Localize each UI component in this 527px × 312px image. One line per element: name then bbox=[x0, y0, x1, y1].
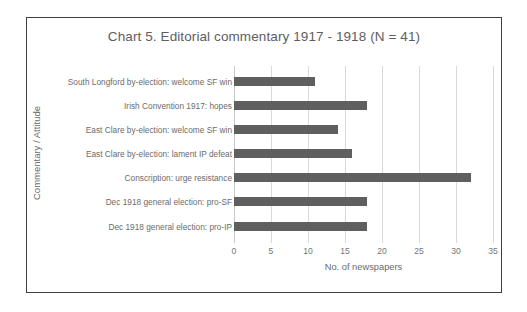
x-tick-label: 35 bbox=[478, 246, 508, 256]
bar[interactable] bbox=[234, 222, 367, 231]
category-label: Conscription: urge resistance bbox=[51, 166, 232, 190]
x-tick-label: 25 bbox=[404, 246, 434, 256]
category-axis-labels: South Longford by-election: welcome SF w… bbox=[51, 70, 232, 239]
bar-row[interactable] bbox=[234, 190, 493, 214]
category-label: South Longford by-election: welcome SF w… bbox=[51, 70, 232, 94]
x-tick-label: 30 bbox=[441, 246, 471, 256]
x-axis-title: No. of newspapers bbox=[234, 262, 493, 272]
bar[interactable] bbox=[234, 77, 315, 86]
x-tick-label: 15 bbox=[330, 246, 360, 256]
x-tick-label: 10 bbox=[293, 246, 323, 256]
chart-frame: Chart 5. Editorial commentary 1917 - 191… bbox=[26, 17, 502, 293]
x-axis-tick-labels: 05101520253035 bbox=[234, 246, 493, 260]
gridline-35 bbox=[493, 66, 494, 243]
x-tick-label: 5 bbox=[256, 246, 286, 256]
bar-row[interactable] bbox=[234, 94, 493, 118]
bar[interactable] bbox=[234, 173, 471, 182]
category-label: Dec 1918 general election: pro-SF bbox=[51, 190, 232, 214]
bar[interactable] bbox=[234, 101, 367, 110]
category-label: East Clare by-election: lament IP defeat bbox=[51, 142, 232, 166]
bars-layer bbox=[234, 70, 493, 239]
x-tick-label: 0 bbox=[219, 246, 249, 256]
bar-row[interactable] bbox=[234, 142, 493, 166]
category-label: Dec 1918 general election: pro-IP bbox=[51, 215, 232, 239]
plot-wrapper: South Longford by-election: welcome SF w… bbox=[27, 18, 501, 292]
bar-row[interactable] bbox=[234, 70, 493, 94]
bar-row[interactable] bbox=[234, 215, 493, 239]
bar[interactable] bbox=[234, 149, 352, 158]
bar[interactable] bbox=[234, 125, 338, 134]
y-axis-title: Commentary / Attitude bbox=[31, 78, 45, 228]
category-label: East Clare by-election: welcome SF win bbox=[51, 118, 232, 142]
bar-row[interactable] bbox=[234, 118, 493, 142]
x-tick-label: 20 bbox=[367, 246, 397, 256]
bar-row[interactable] bbox=[234, 166, 493, 190]
category-label: Irish Convention 1917: hopes bbox=[51, 94, 232, 118]
bar[interactable] bbox=[234, 197, 367, 206]
